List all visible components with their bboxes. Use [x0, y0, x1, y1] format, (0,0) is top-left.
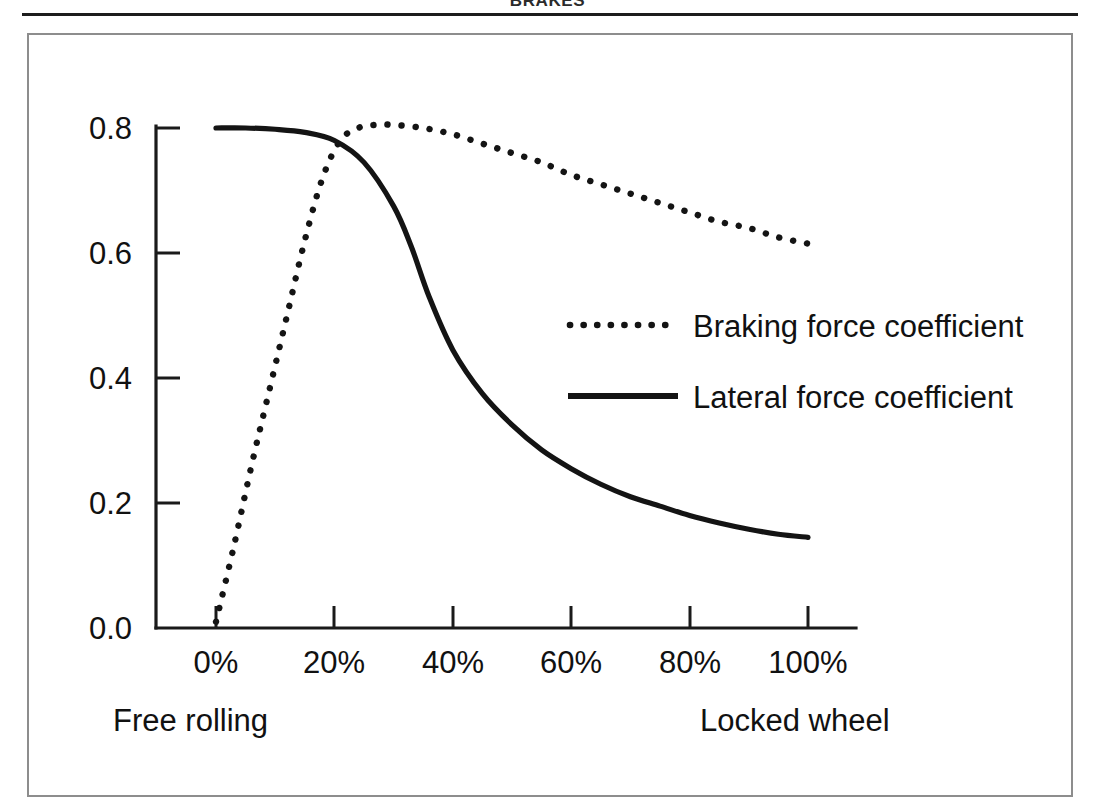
- y-tick-label-1: 0.2: [42, 486, 132, 522]
- x-tick-label-1: 20%: [274, 645, 394, 681]
- annotation-locked-wheel: Locked wheel: [700, 703, 890, 739]
- legend-label-braking-force-coefficient: Braking force coefficient: [693, 309, 1023, 345]
- x-tick-label-2: 40%: [393, 645, 513, 681]
- y-tick-label-4: 0.8: [42, 111, 132, 147]
- legend-label-lateral-force-coefficient: Lateral force coefficient: [693, 380, 1013, 416]
- running-header-title: BRAKES: [0, 0, 1095, 11]
- y-tick-label-2: 0.4: [42, 361, 132, 397]
- x-tick-label-3: 60%: [511, 645, 631, 681]
- y-tick-label-0: 0.0: [42, 611, 132, 647]
- x-tick-label-4: 80%: [630, 645, 750, 681]
- x-tick-label-5: 100%: [748, 645, 868, 681]
- header-rule: [22, 13, 1078, 16]
- running-header: BRAKES: [0, 0, 1095, 14]
- y-tick-label-3: 0.6: [42, 236, 132, 272]
- x-tick-label-0: 0%: [156, 645, 276, 681]
- annotation-free-rolling: Free rolling: [113, 703, 268, 739]
